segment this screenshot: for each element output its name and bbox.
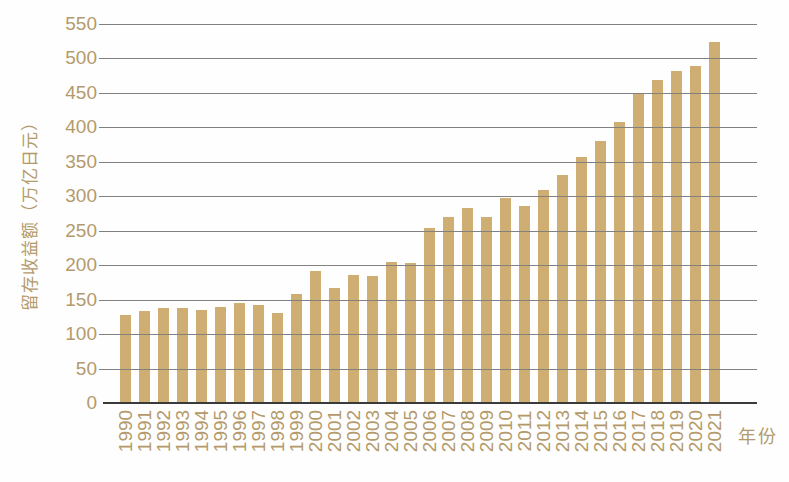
bar-1992 [158, 308, 169, 404]
bar-2018 [652, 80, 663, 404]
y-tick-label-350: 350 [37, 151, 97, 173]
bar-2014 [576, 157, 587, 404]
gridline-450 [99, 93, 757, 94]
bar-2009 [481, 217, 492, 404]
bar-2021 [709, 42, 720, 404]
gridline-550 [99, 24, 757, 25]
x-axis-title: 年份 [738, 422, 778, 448]
bar-2016 [614, 122, 625, 404]
gridline-200 [99, 265, 757, 266]
bar-1994 [196, 310, 207, 404]
y-tick-label-550: 550 [37, 13, 97, 35]
bar-2015 [595, 141, 606, 404]
gridline-400 [99, 127, 757, 128]
bar-2012 [538, 190, 549, 404]
bar-1991 [139, 311, 150, 404]
gridline-150 [99, 300, 757, 301]
gridline-300 [99, 196, 757, 197]
gridline-500 [99, 58, 757, 59]
bar-1999 [291, 294, 302, 404]
bar-2011 [519, 206, 530, 404]
plot-area: 0501001502002503003504004505005501990199… [0, 0, 789, 482]
y-tick-label-250: 250 [37, 220, 97, 242]
y-tick-label-450: 450 [37, 82, 97, 104]
bar-1990 [120, 315, 131, 404]
y-tick-label-400: 400 [37, 116, 97, 138]
bar-2002 [348, 275, 359, 404]
bar-chart: 留存收益额（万亿日元） 0501001502002503003504004505… [0, 0, 789, 482]
x-axis-line [103, 402, 757, 404]
y-tick-label-50: 50 [37, 358, 97, 380]
bar-2004 [386, 262, 397, 404]
bar-2001 [329, 288, 340, 404]
y-tick-label-150: 150 [37, 289, 97, 311]
bar-2020 [690, 66, 701, 404]
y-tick-label-100: 100 [37, 323, 97, 345]
bar-2019 [671, 71, 682, 404]
bar-1995 [215, 307, 226, 404]
bar-2003 [367, 276, 378, 404]
bar-2017 [633, 93, 644, 404]
y-tick-label-0: 0 [37, 392, 97, 414]
y-tick-label-300: 300 [37, 185, 97, 207]
bar-2007 [443, 217, 454, 404]
bar-2008 [462, 208, 473, 404]
bar-1997 [253, 305, 264, 404]
bar-1993 [177, 308, 188, 404]
gridline-350 [99, 162, 757, 163]
gridline-250 [99, 231, 757, 232]
bar-2000 [310, 271, 321, 404]
gridline-50 [99, 369, 757, 370]
bar-2010 [500, 198, 511, 404]
x-tick-label-2021: 2021 [704, 410, 726, 452]
gridline-100 [99, 334, 757, 335]
y-tick-label-200: 200 [37, 254, 97, 276]
bar-1998 [272, 313, 283, 404]
y-tick-label-500: 500 [37, 47, 97, 69]
bar-2006 [424, 228, 435, 404]
bar-1996 [234, 303, 245, 404]
